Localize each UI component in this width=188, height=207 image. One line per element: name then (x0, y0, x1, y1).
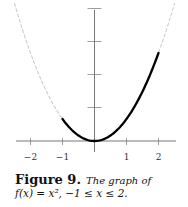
figure-label: Figure 9. (15, 172, 81, 187)
function-graph: −2−112 (0, 0, 188, 170)
x-tick-label: 2 (156, 152, 162, 162)
figure-caption: Figure 9. The graph of f(x) = x², −1 ≤ x… (15, 172, 185, 200)
x-tick-label: 1 (124, 152, 130, 162)
x-tick-label: −2 (24, 152, 37, 162)
axes (16, 9, 176, 153)
caption-text: The graph of (86, 175, 151, 186)
caption-math: f(x) = x², −1 ≤ x ≤ 2. (15, 187, 185, 200)
x-tick-label: −1 (56, 152, 69, 162)
solid-curve (63, 53, 159, 141)
tick-labels: −2−112 (24, 152, 162, 162)
